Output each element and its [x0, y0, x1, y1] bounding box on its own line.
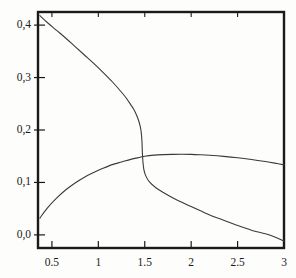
x-tick-label-4: 2.5: [218, 257, 258, 269]
data-series-group: [40, 16, 284, 242]
y-tick-label-3: 0,3: [4, 72, 31, 84]
x-tick-label-0: 0.5: [32, 257, 72, 269]
curve-rising-branch: [40, 154, 284, 218]
y-axis-ticks: [34, 25, 45, 235]
axes-frame: [38, 12, 284, 248]
x-axis-ticks: [52, 12, 284, 248]
y-tick-label-1: 0,1: [4, 176, 31, 188]
x-tick-label-1: 1: [78, 257, 118, 269]
x-tick-label-5: 3: [264, 257, 296, 269]
plot-area: [0, 0, 296, 278]
x-tick-label-3: 2: [171, 257, 211, 269]
plot-frame: [38, 12, 284, 248]
y-tick-label-4: 0,4: [4, 19, 31, 31]
y-tick-label-0: 0,0: [4, 229, 31, 241]
y-tick-label-2: 0,2: [4, 124, 31, 136]
chart-figure: 0,00,10,20,30,4 0.511.522.53: [0, 0, 296, 278]
x-tick-label-2: 1.5: [125, 257, 165, 269]
curve-descending-branch: [40, 16, 284, 242]
